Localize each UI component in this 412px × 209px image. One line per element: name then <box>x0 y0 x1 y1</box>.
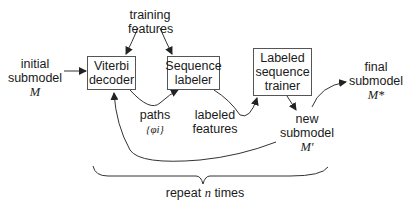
features-text: features <box>128 22 172 36</box>
labeled-text: labeled <box>190 108 240 122</box>
final-symbol: M* <box>347 88 405 102</box>
repeat-label: repeat n times <box>165 186 245 200</box>
paths-text: paths <box>138 108 172 122</box>
trainer-line2: sequence <box>255 65 309 79</box>
initial-text: initial <box>6 57 64 71</box>
repeat-n-symbol: n <box>205 186 211 200</box>
submodel2-text: submodel <box>278 126 336 140</box>
viterbi-line1: Viterbi <box>94 59 129 73</box>
times-text: times <box>214 186 244 200</box>
arrow-viterbi-to-labeler <box>130 90 178 106</box>
labeled-sequence-trainer-box: Labeled sequence trainer <box>253 48 312 96</box>
labeled-features-label: labeled features <box>190 108 240 136</box>
features2-text: features <box>190 122 240 136</box>
labeler-line1: Sequence <box>165 59 221 73</box>
training-features-label: training features <box>128 8 172 36</box>
new-text: new <box>278 112 336 126</box>
training-text: training <box>128 8 172 22</box>
viterbi-decoder-box: Viterbi decoder <box>87 56 136 90</box>
final-submodel-label: final submodel M* <box>347 60 405 102</box>
sequence-labeler-box: Sequence labeler <box>167 56 220 90</box>
diagram-connectors <box>0 0 412 209</box>
final-text: final <box>347 60 405 74</box>
submodel-text: submodel <box>6 71 64 85</box>
new-symbol: M′ <box>278 140 336 154</box>
labeler-line2: labeler <box>175 73 213 87</box>
trainer-line1: Labeled <box>260 51 305 65</box>
paths-label: paths {φi} <box>138 108 172 136</box>
paths-symbol: {φi} <box>138 122 172 136</box>
repeat-brace <box>93 166 328 184</box>
arrow-trainer-to-new <box>287 96 296 110</box>
initial-symbol: M <box>6 85 64 99</box>
trainer-line3: trainer <box>265 79 300 93</box>
initial-submodel-label: initial submodel M <box>6 57 64 99</box>
submodel3-text: submodel <box>347 74 405 88</box>
arrow-new-to-final <box>312 82 346 107</box>
repeat-text: repeat <box>166 186 201 200</box>
viterbi-line2: decoder <box>89 73 134 87</box>
new-submodel-label: new submodel M′ <box>278 112 336 154</box>
